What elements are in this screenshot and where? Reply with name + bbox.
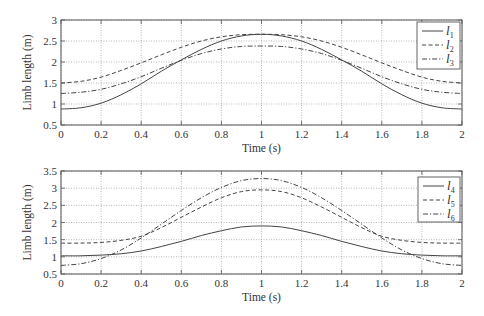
x-tick-label: 0.2 (94, 128, 108, 140)
y-axis-label: Limb length (m) (21, 34, 34, 110)
y-tick-label: 0.5 (43, 268, 57, 280)
x-tick-label: 1 (259, 128, 265, 140)
y-tick-label: 1.5 (43, 234, 57, 246)
x-tick-label: 1 (259, 277, 265, 289)
grid (61, 171, 462, 274)
x-tick-label: 1.8 (415, 128, 429, 140)
legend: l4l5l6 (418, 177, 460, 223)
x-tick-label: 0.4 (134, 128, 148, 140)
x-tick-label: 0 (58, 277, 64, 289)
x-tick-label: 1.4 (335, 277, 349, 289)
y-tick-label: 3 (52, 14, 58, 26)
x-axis-label: Time (s) (242, 291, 281, 304)
y-axis-label: Limb length (m) (21, 184, 34, 260)
x-tick-label: 0.8 (215, 277, 229, 289)
y-tick-label: 1 (52, 98, 58, 110)
x-tick-label: 0.6 (174, 128, 188, 140)
y-tick-label: 2 (52, 56, 58, 68)
x-tick-label: 1.2 (295, 128, 309, 140)
y-tick-label: 2.5 (43, 35, 57, 47)
x-tick-label: 2 (459, 128, 465, 140)
x-tick-label: 0.6 (174, 277, 188, 289)
x-tick-label: 0.8 (215, 128, 229, 140)
legend: l1l2l3 (417, 22, 460, 69)
grid (61, 20, 462, 125)
x-tick-label: 0 (58, 128, 64, 140)
x-tick-label: 1.8 (415, 277, 429, 289)
y-tick-label: 1.5 (43, 77, 57, 89)
x-tick-label: 1.6 (375, 128, 389, 140)
x-axis-label: Time (s) (242, 142, 281, 155)
y-tick-label: 3.5 (43, 165, 57, 177)
y-tick-label: 2.5 (43, 199, 57, 211)
y-tick-label: 3 (52, 182, 58, 194)
chart-panel-2: 00.20.40.60.811.21.41.61.820.511.522.533… (21, 165, 465, 304)
x-tick-label: 2 (459, 277, 465, 289)
figure: 00.20.40.60.811.21.41.61.820.511.522.53T… (0, 0, 484, 316)
y-tick-label: 1 (52, 251, 58, 263)
x-tick-label: 0.2 (94, 277, 108, 289)
x-tick-label: 1.2 (295, 277, 309, 289)
chart-panel-1: 00.20.40.60.811.21.41.61.820.511.522.53T… (21, 14, 465, 155)
x-tick-label: 1.4 (335, 128, 349, 140)
x-tick-label: 0.4 (134, 277, 148, 289)
y-tick-label: 0.5 (43, 119, 57, 131)
line-charts: 00.20.40.60.811.21.41.61.820.511.522.53T… (0, 0, 484, 316)
y-tick-label: 2 (52, 217, 58, 229)
x-tick-label: 1.6 (375, 277, 389, 289)
